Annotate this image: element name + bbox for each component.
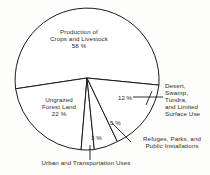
slice-label-refuges-parks: Refuges, Parks, and Public Installations: [133, 136, 210, 150]
slice-percent-desert: 12 %: [118, 94, 132, 101]
slice-percent-refuges: 5 %: [110, 119, 121, 126]
slice-label-ungrazed-forest-land: Ungrazed Forest Land 22 %: [28, 97, 90, 118]
slice-label-production: Production of Crops and Livestock 58 %: [36, 29, 122, 50]
pie-chart-figure: Production of Crops and Livestock 58 % U…: [0, 0, 210, 175]
slice-percent-urban: 3 %: [91, 134, 102, 141]
slice-label-desert-swamp-tundra: Desert, Swamp, Tundra, and Limited Surfa…: [165, 83, 210, 118]
slice-label-urban-transportation: Urban and Transportation Uses: [16, 160, 156, 167]
